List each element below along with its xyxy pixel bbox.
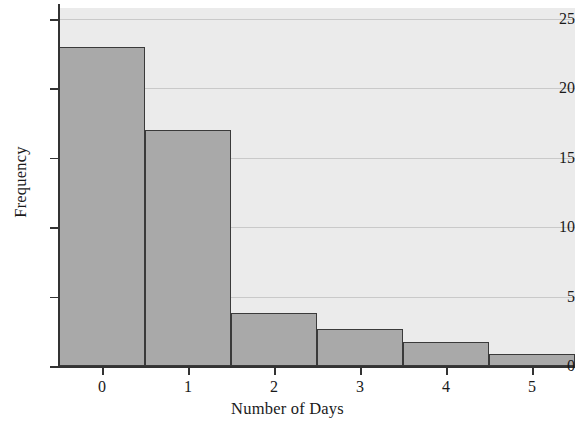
histogram-bar: [145, 130, 231, 366]
x-axis-tick-label: 1: [168, 379, 208, 395]
y-axis-tick-label: 5: [529, 289, 575, 305]
histogram-figure: 0510152025 012345 Number of Days Frequen…: [0, 0, 575, 421]
plot-area: [59, 8, 575, 366]
x-axis-tick-label: 5: [512, 379, 552, 395]
y-axis-tick-label: 10: [529, 219, 575, 235]
x-axis-tick-label: 3: [340, 379, 380, 395]
x-axis-tick: [446, 367, 448, 375]
histogram-bar: [231, 313, 317, 366]
histogram-bar: [403, 342, 489, 366]
y-axis-tick-label: 15: [529, 150, 575, 166]
x-axis-tick: [102, 367, 104, 375]
x-axis-tick: [188, 367, 190, 375]
y-axis-tick: [50, 19, 59, 21]
y-axis-tick-label: 0: [529, 358, 575, 374]
x-axis-tick-label: 0: [82, 379, 122, 395]
histogram-bar: [59, 47, 145, 366]
x-axis-tick-label: 2: [254, 379, 294, 395]
y-axis-tick: [50, 88, 59, 90]
x-axis-tick: [274, 367, 276, 375]
y-axis-tick-label: 20: [529, 80, 575, 96]
x-axis-title: Number of Days: [0, 399, 575, 419]
histogram-bar: [317, 329, 403, 366]
y-axis-line: [58, 4, 60, 368]
y-axis-tick: [50, 366, 59, 368]
y-axis-title: Frequency: [11, 82, 31, 282]
x-axis-line: [50, 366, 575, 368]
y-axis-tick-label: 25: [529, 11, 575, 27]
gridline: [59, 19, 575, 20]
y-axis-tick: [50, 297, 59, 299]
x-axis-tick-label: 4: [426, 379, 466, 395]
x-axis-tick: [532, 367, 534, 375]
y-axis-tick: [50, 227, 59, 229]
y-axis-tick: [50, 158, 59, 160]
x-axis-tick: [360, 367, 362, 375]
